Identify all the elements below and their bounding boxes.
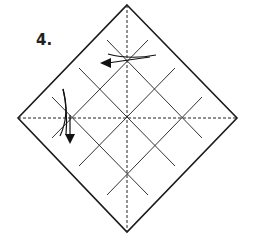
origami-diagram (0, 0, 253, 250)
